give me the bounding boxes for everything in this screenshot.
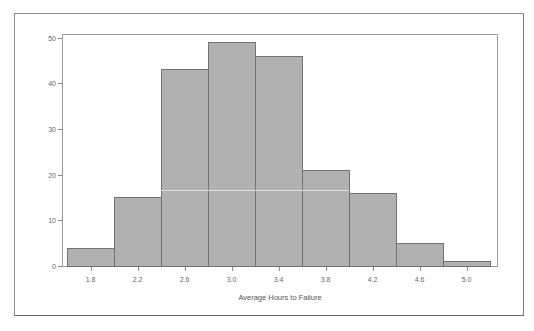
- x-tick-label: 2.6: [180, 276, 190, 283]
- x-axis-title: Average Hours to Failure: [238, 293, 321, 302]
- x-tick: [420, 267, 421, 271]
- y-tick: [58, 175, 62, 176]
- x-tick-label: 5.0: [462, 276, 472, 283]
- x-tick: [326, 267, 327, 271]
- y-tick-label: 40: [48, 80, 56, 87]
- histogram-bar: [67, 248, 115, 267]
- x-tick-label: 3.0: [227, 276, 237, 283]
- histogram-bar: [349, 193, 397, 267]
- histogram-bar: [114, 197, 162, 267]
- x-tick-label: 3.8: [321, 276, 331, 283]
- histogram-bar: [396, 243, 444, 267]
- x-tick: [138, 267, 139, 271]
- y-tick-label: 10: [48, 217, 56, 224]
- x-tick-label: 1.8: [86, 276, 96, 283]
- y-tick: [58, 83, 62, 84]
- y-tick: [58, 220, 62, 221]
- x-tick: [279, 267, 280, 271]
- x-tick: [467, 267, 468, 271]
- y-tick-label: 30: [48, 125, 56, 132]
- y-tick: [58, 129, 62, 130]
- histogram-bar: [255, 56, 303, 267]
- y-tick: [58, 38, 62, 39]
- x-tick-label: 4.6: [415, 276, 425, 283]
- y-tick-label: 0: [52, 263, 56, 270]
- y-tick: [58, 266, 62, 267]
- x-tick: [91, 267, 92, 271]
- x-tick: [232, 267, 233, 271]
- x-tick-label: 3.4: [274, 276, 284, 283]
- histogram-bar: [161, 69, 209, 267]
- x-tick-label: 2.2: [133, 276, 143, 283]
- histogram-bar: [208, 42, 256, 267]
- x-tick: [185, 267, 186, 271]
- y-tick-label: 20: [48, 171, 56, 178]
- scan-line-artifact: [161, 190, 349, 191]
- y-tick-label: 50: [48, 34, 56, 41]
- x-tick-label: 4.2: [368, 276, 378, 283]
- x-tick: [373, 267, 374, 271]
- histogram-bar: [302, 170, 350, 267]
